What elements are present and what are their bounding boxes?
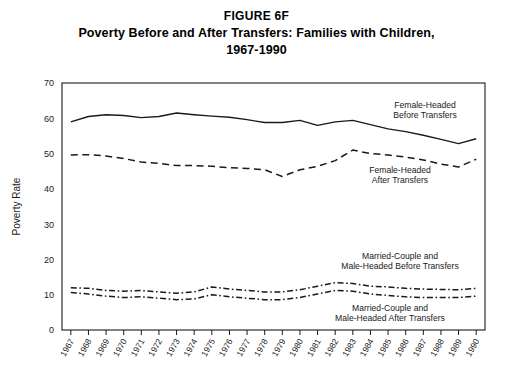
x-tick-label: 1973 [164, 337, 182, 358]
x-tick-label: 1977 [234, 337, 252, 358]
y-tick-label: 50 [44, 149, 54, 159]
annotation-married-male-headed-after-transfers: Married-Couple andMale-Headed After Tran… [335, 303, 445, 323]
x-tick-label: 1980 [287, 337, 305, 358]
x-tick-label: 1978 [252, 337, 270, 358]
annotation-line-2: Male-Headed Before Transfers [341, 261, 459, 271]
y-tick-label: 10 [44, 290, 54, 300]
x-tick-label: 1986 [393, 337, 411, 358]
x-tick-label: 1975 [199, 337, 217, 358]
series-line-2 [71, 283, 476, 294]
x-tick-label: 1981 [305, 337, 323, 358]
x-tick-label: 1985 [375, 337, 393, 358]
annotation-line-2: After Transfers [372, 175, 428, 185]
plot-frame [62, 83, 485, 330]
x-tick-label: 1970 [111, 337, 129, 358]
x-tick-label: 1990 [463, 337, 481, 358]
annotation-female-headed-before-transfers: Female-HeadedBefore Transfers [393, 100, 457, 120]
x-tick-label: 1979 [270, 337, 288, 358]
annotation-line-2: Male-Headed After Transfers [335, 313, 445, 323]
y-tick-label: 20 [44, 255, 54, 265]
annotation-married-male-headed-before-transfers: Married-Couple andMale-Headed Before Tra… [341, 251, 459, 271]
x-tick-label: 1974 [181, 337, 199, 358]
y-tick-label: 0 [49, 325, 54, 335]
annotation-line-1: Married-Couple and [352, 303, 428, 313]
annotation-line-1: Female-Headed [369, 165, 431, 175]
y-tick-label: 40 [44, 184, 54, 194]
plot-area-wrapper: 010203040506070Poverty Rate1967196819691… [0, 0, 513, 382]
y-tick-label: 30 [44, 220, 54, 230]
figure-6f-chart: FIGURE 6F Poverty Before and After Trans… [0, 0, 513, 382]
x-tick-label: 1971 [129, 337, 147, 358]
x-tick-label: 1987 [411, 337, 429, 358]
x-tick-label: 1968 [76, 337, 94, 358]
annotation-line-1: Female-Headed [394, 100, 456, 110]
annotation-line-1: Married-Couple and [362, 251, 438, 261]
x-tick-label: 1982 [322, 337, 340, 358]
y-tick-label: 70 [44, 78, 54, 88]
x-tick-label: 1972 [146, 337, 164, 358]
annotation-female-headed-after-transfers: Female-HeadedAfter Transfers [369, 165, 431, 185]
chart-svg: 010203040506070Poverty Rate1967196819691… [0, 0, 513, 382]
x-tick-label: 1976 [217, 337, 235, 358]
x-tick-label: 1989 [446, 337, 464, 358]
annotation-line-2: Before Transfers [393, 110, 457, 120]
x-tick-label: 1969 [93, 337, 111, 358]
x-tick-label: 1984 [358, 337, 376, 358]
x-tick-label: 1983 [340, 337, 358, 358]
series-line-3 [71, 290, 476, 299]
series-layer [71, 113, 476, 300]
x-tick-label: 1967 [58, 337, 76, 358]
y-tick-label: 60 [44, 114, 54, 124]
y-axis-label: Poverty Rate [11, 177, 22, 235]
x-tick-label: 1988 [428, 337, 446, 358]
